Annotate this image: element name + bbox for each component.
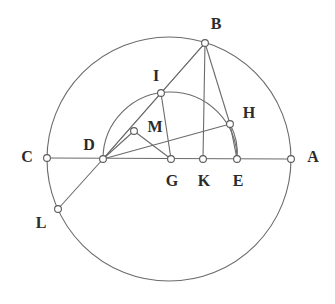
segment-MG <box>134 131 171 159</box>
vertex-D <box>100 156 107 163</box>
vertex-L <box>55 206 62 213</box>
vertex-E <box>234 156 241 163</box>
point-label-C: C <box>21 149 33 165</box>
vertex-B <box>202 40 209 47</box>
point-label-M: M <box>147 119 162 135</box>
vertex-K <box>200 156 207 163</box>
segment-DL <box>58 159 103 209</box>
point-label-D: D <box>83 137 95 153</box>
point-label-A: A <box>307 149 319 165</box>
point-label-K: K <box>198 173 210 189</box>
geometry-canvas <box>0 0 335 304</box>
point-label-B: B <box>211 16 222 32</box>
vertex-M <box>131 128 138 135</box>
vertex-I <box>158 90 165 97</box>
point-label-L: L <box>36 215 47 231</box>
vertex-H <box>227 121 234 128</box>
point-label-E: E <box>233 173 244 189</box>
point-label-H: H <box>243 105 255 121</box>
vertex-C <box>44 155 51 162</box>
vertex-A <box>288 156 295 163</box>
vertex-G <box>168 156 175 163</box>
segment-BI <box>161 43 205 93</box>
point-label-I: I <box>153 68 159 84</box>
point-label-G: G <box>166 173 178 189</box>
geometry-figure: A B C D E G H I K L M <box>0 0 335 304</box>
